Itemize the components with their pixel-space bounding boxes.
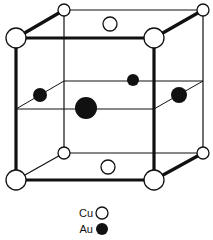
cu-atom-back-top-left [58, 4, 70, 16]
cu-atom-back-bottom-right [197, 147, 209, 159]
legend: Cu Au [79, 207, 108, 235]
cu-atom-front-top-left [6, 28, 26, 48]
au-atom-right-face [171, 87, 187, 103]
cu-atom-front-bottom-right [144, 170, 164, 190]
legend-label-cu: Cu [79, 207, 93, 219]
cu-atom-bottom-face [101, 160, 115, 174]
au-atom-front-face [75, 97, 97, 119]
cu-atom-back-bottom-left [58, 147, 70, 159]
cu-atom-front-top-right [144, 28, 164, 48]
legend-label-au: Au [80, 223, 93, 235]
au-atom-back-face [127, 74, 139, 86]
cu-atom-back-top-right [197, 4, 209, 16]
legend-cu-symbol [96, 207, 108, 219]
au-atom-left-face [33, 88, 47, 102]
cu-atom-top-face [103, 17, 117, 31]
legend-au-symbol [96, 223, 108, 235]
cu-atom-front-bottom-left [6, 170, 26, 190]
cuau-unit-cell-diagram: Cu Au [0, 0, 213, 240]
